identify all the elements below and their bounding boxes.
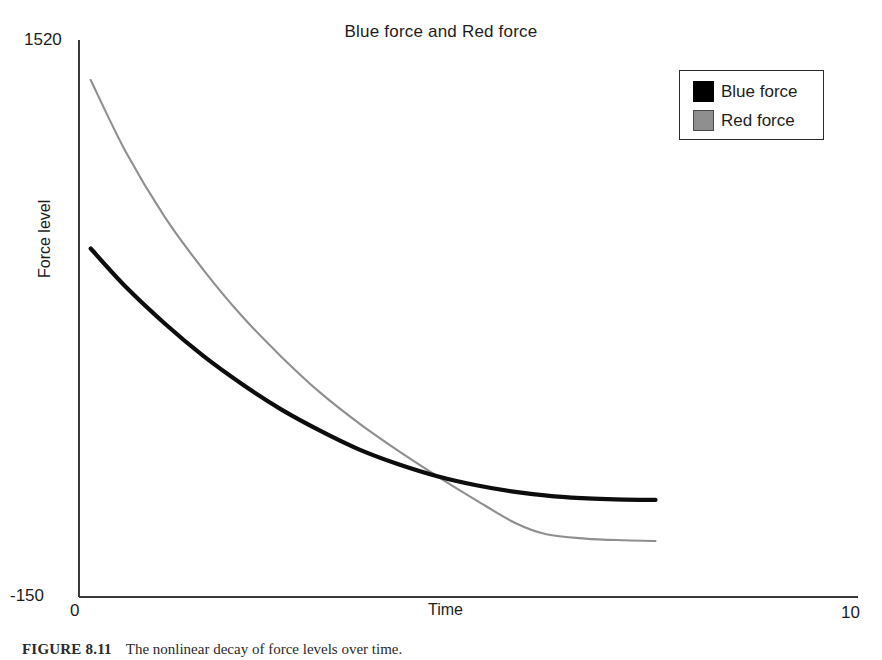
y-axis-tick-max: 1520: [24, 30, 62, 50]
legend-swatch-icon-red-force: [693, 110, 714, 131]
x-axis-tick-max: 10: [841, 603, 860, 623]
legend-swatch-icon-blue-force: [693, 81, 714, 102]
legend-label-red-force: Red force: [721, 111, 795, 131]
x-axis-tick-min: 0: [70, 601, 79, 621]
figure-caption-text: The nonlinear decay of force levels over…: [126, 641, 403, 657]
series-line-red-force: [91, 80, 656, 541]
legend-item-red-force: Red force: [693, 106, 823, 135]
legend-label-blue-force: Blue force: [721, 82, 798, 102]
figure-caption-label: FIGURE 8.11: [22, 641, 112, 657]
series-line-blue-force: [91, 249, 656, 500]
legend-item-blue-force: Blue force: [693, 77, 823, 106]
x-axis-label: Time: [428, 601, 463, 619]
chart-legend: Blue force Red force: [679, 70, 824, 140]
figure-caption: FIGURE 8.11The nonlinear decay of force …: [22, 641, 882, 658]
y-axis-tick-min: -150: [10, 586, 44, 606]
figure-root: Blue force and Red force 1520 -150 0 10 …: [0, 0, 882, 660]
chart-title: Blue force and Red force: [0, 22, 882, 42]
y-axis-label: Force level: [36, 200, 54, 278]
